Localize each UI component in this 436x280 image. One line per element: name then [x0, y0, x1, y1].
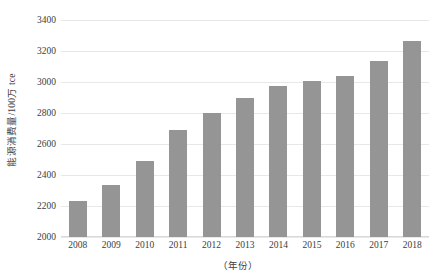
- y-axis-tick-label: 2800: [37, 108, 56, 118]
- gridline: [61, 237, 429, 238]
- y-axis-title: 能源消费量/100万 tce: [0, 0, 22, 240]
- y-axis-tick-label: 2600: [37, 139, 56, 149]
- y-axis-tick-label: 3200: [37, 46, 56, 56]
- bar-chart: 能源消费量/100万 tce 2000220024002600280030003…: [0, 0, 436, 280]
- bar: [336, 76, 354, 237]
- y-axis-tick-label: 3400: [37, 15, 56, 25]
- y-axis-title-text: 能源消费量/100万 tce: [4, 73, 18, 166]
- bar: [69, 201, 87, 237]
- y-axis-tick-label: 3000: [37, 77, 56, 87]
- bar: [102, 185, 120, 237]
- bar: [169, 130, 187, 237]
- bars-layer: [61, 20, 429, 237]
- x-axis-title-text: （年份）: [178, 261, 258, 271]
- x-axis-tick-label: 2012: [202, 240, 221, 250]
- bar: [403, 41, 421, 237]
- x-axis-tick-label: 2010: [135, 240, 154, 250]
- bar: [203, 113, 221, 237]
- x-axis-tick-label: 2011: [169, 240, 188, 250]
- bar: [269, 86, 287, 237]
- bar: [370, 61, 388, 237]
- y-axis-tick-labels: 20002200240026002800300032003400: [20, 0, 60, 240]
- x-axis-tick-label: 2015: [302, 240, 321, 250]
- x-axis-tick-label: 2018: [403, 240, 422, 250]
- plot-area: [61, 20, 429, 237]
- x-axis-tick-labels: 2008200920102011201220132014201520162017…: [61, 240, 429, 256]
- x-axis-tick-label: 2014: [269, 240, 288, 250]
- x-axis-tick-label: 2017: [369, 240, 388, 250]
- bar: [136, 161, 154, 237]
- bar: [236, 98, 254, 238]
- y-axis-tick-label: 2400: [37, 170, 56, 180]
- x-axis-title: （年份）: [0, 258, 436, 272]
- bar: [303, 81, 321, 237]
- x-axis-tick-label: 2009: [102, 240, 121, 250]
- x-axis-tick-label: 2016: [336, 240, 355, 250]
- x-axis-tick-label: 2013: [236, 240, 255, 250]
- x-axis-tick-label: 2008: [68, 240, 87, 250]
- y-axis-tick-label: 2000: [37, 232, 56, 242]
- y-axis-tick-label: 2200: [37, 201, 56, 211]
